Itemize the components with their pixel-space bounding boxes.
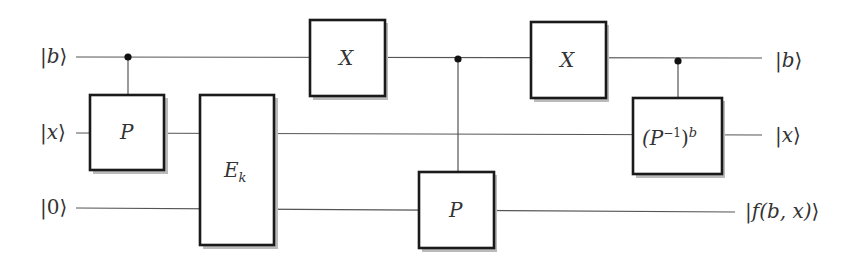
ket-angle: ⟩ [58, 120, 66, 144]
ket-var: x [47, 120, 58, 144]
control-dot-p1 [124, 53, 131, 60]
control-dot-pinv [674, 57, 681, 64]
ket-angle: ⟩ [793, 123, 801, 147]
gate-label-p-open: (P [642, 126, 663, 150]
gate-label-x2: X [560, 50, 574, 70]
gate-label-e: E [224, 158, 239, 182]
gate-label-x1: X [339, 48, 353, 68]
gate-label-pinv: (P−1)b [642, 126, 697, 148]
ket-var: x [782, 123, 793, 147]
ket-angle: ⟩ [60, 44, 68, 68]
ket-bar: | [775, 123, 782, 147]
ket-bar: | [40, 195, 47, 219]
wire-0 [76, 208, 735, 212]
input-ket-x: |x⟩ [40, 122, 66, 142]
ket-var: b [782, 48, 795, 72]
ket-bar: | [775, 48, 782, 72]
input-ket-0: |0⟩ [40, 197, 67, 217]
gate-label-close: ) [681, 126, 689, 150]
output-ket-x: |x⟩ [775, 125, 801, 145]
ket-bar: | [40, 44, 47, 68]
gate-label-k: k [239, 170, 247, 185]
control-dot-p2 [454, 55, 461, 62]
ket-var: 0 [47, 195, 60, 219]
ket-var: b [47, 44, 60, 68]
gate-label-inverse: −1 [663, 126, 681, 140]
ket-bar: | [40, 120, 47, 144]
ket-angle: ⟩ [812, 199, 820, 223]
output-ket-f: |f(b, x)⟩ [745, 201, 819, 221]
ket-bar: | [745, 199, 752, 223]
gate-label-power-b: b [689, 125, 697, 140]
gate-label-p1: P [120, 122, 133, 142]
wire-b [76, 57, 762, 58]
ket-angle: ⟩ [59, 195, 67, 219]
ket-var: f(b, x) [752, 199, 812, 223]
input-ket-b: |b⟩ [40, 46, 67, 66]
gate-label-p2: P [449, 200, 462, 220]
ket-angle: ⟩ [795, 48, 803, 72]
output-ket-b: |b⟩ [775, 50, 802, 70]
gate-label-ek: Ek [224, 160, 247, 184]
